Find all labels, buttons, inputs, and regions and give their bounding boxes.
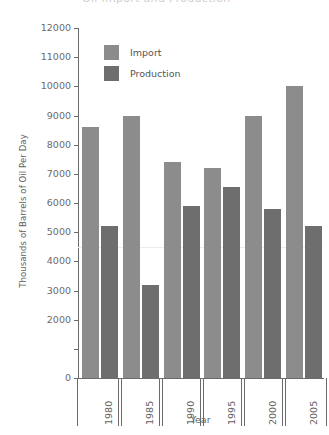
y-tick-label-6000: 6000 <box>47 198 71 208</box>
bar-import-2005 <box>286 86 303 378</box>
y-tick-11000 <box>74 57 79 58</box>
y-tick-label-0: 0 <box>65 373 71 383</box>
y-tick-2000 <box>74 320 79 321</box>
y-tick-label-2000: 2000 <box>47 315 71 325</box>
x-axis-line <box>78 378 324 379</box>
bar-production-2000 <box>264 209 281 378</box>
y-tick-3000 <box>74 291 79 292</box>
bar-import-1980 <box>82 127 99 378</box>
legend-item-production: Production <box>104 63 181 84</box>
y-tick-label-5000: 5000 <box>47 227 71 237</box>
legend-label-production: Production <box>130 68 181 79</box>
chart-legend: Import Production <box>104 42 181 84</box>
bar-import-1990 <box>164 162 181 378</box>
y-tick-9000 <box>74 116 79 117</box>
y-tick-label-8000: 8000 <box>47 140 71 150</box>
y-tick-1000 <box>74 349 79 350</box>
bar-production-2005 <box>305 226 322 378</box>
y-tick-4000 <box>74 261 79 262</box>
legend-label-import: Import <box>130 47 162 58</box>
y-tick-label-9000: 9000 <box>47 111 71 121</box>
y-tick-label-10000: 10000 <box>41 81 71 91</box>
import-swatch-icon <box>104 45 119 60</box>
y-tick-label-12000: 12000 <box>41 23 71 33</box>
y-tick-5000 <box>74 232 79 233</box>
y-tick-label-11000: 11000 <box>41 52 71 62</box>
y-tick-12000 <box>74 28 79 29</box>
legend-item-import: Import <box>104 42 181 63</box>
y-tick-label-4000: 4000 <box>47 256 71 266</box>
bar-production-1980 <box>101 226 118 378</box>
bar-import-1995 <box>204 168 221 378</box>
chart-title-text: Oil Import and Production <box>82 0 232 4</box>
y-tick-label-7000: 7000 <box>47 169 71 179</box>
y-tick-7000 <box>74 174 79 175</box>
bar-production-1990 <box>183 206 200 378</box>
x-axis-title: Year <box>78 414 323 425</box>
x-group-rule-2005-1 <box>326 378 327 426</box>
bar-import-2000 <box>245 116 262 379</box>
bar-production-1995 <box>223 187 240 378</box>
y-tick-label-3000: 3000 <box>47 286 71 296</box>
y-tick-10000 <box>74 86 79 87</box>
chart-title-cropped: Oil Import and Production <box>82 0 232 5</box>
bar-chart: Oil Import and Production Thousands of B… <box>0 0 329 435</box>
production-swatch-icon <box>104 66 119 81</box>
bar-production-1985 <box>142 285 159 378</box>
y-axis-title: Thousands of Barrels of Oil Per Day <box>18 96 28 326</box>
y-tick-8000 <box>74 145 79 146</box>
bar-import-1985 <box>123 116 140 379</box>
y-tick-6000 <box>74 203 79 204</box>
